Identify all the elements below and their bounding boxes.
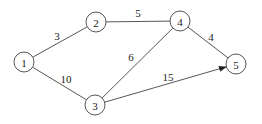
edge-weight-label: 15 bbox=[163, 71, 175, 83]
edge-1-2 bbox=[33, 27, 88, 57]
node-label: 3 bbox=[92, 100, 98, 112]
node-4: 4 bbox=[170, 11, 190, 31]
edge-weight-label: 10 bbox=[61, 73, 73, 85]
node-3: 3 bbox=[85, 95, 105, 115]
node-2: 2 bbox=[86, 12, 106, 32]
nodes-layer: 12345 bbox=[14, 11, 246, 115]
edge-3-4 bbox=[102, 28, 173, 98]
weighted-graph-diagram: 12345 31056415 bbox=[0, 0, 262, 124]
edge-1-3 bbox=[33, 67, 87, 100]
node-label: 5 bbox=[233, 59, 239, 71]
node-5: 5 bbox=[226, 54, 246, 74]
edge-weight-label: 4 bbox=[208, 31, 214, 43]
edge-weight-label: 5 bbox=[135, 7, 141, 19]
edge-weight-label: 6 bbox=[128, 51, 134, 63]
node-label: 4 bbox=[177, 16, 183, 28]
node-label: 2 bbox=[93, 17, 99, 29]
node-1: 1 bbox=[14, 52, 34, 72]
edge-labels-layer: 31056415 bbox=[54, 7, 214, 85]
edge-2-4 bbox=[106, 21, 170, 22]
node-label: 1 bbox=[21, 57, 27, 69]
edge-weight-label: 3 bbox=[54, 30, 60, 42]
